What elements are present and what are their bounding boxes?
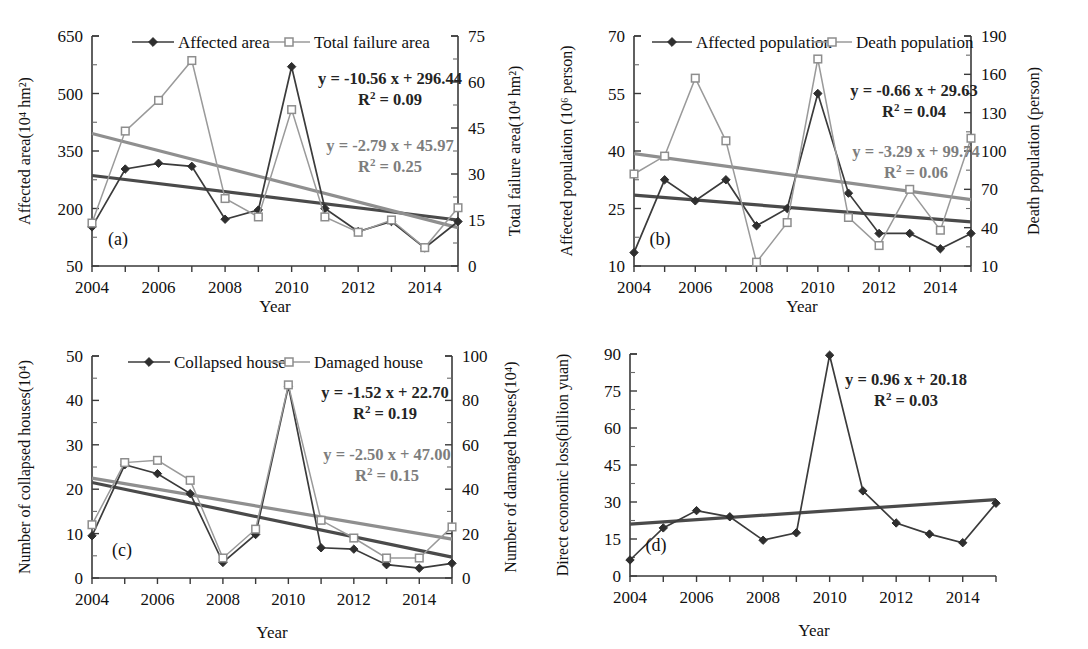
x-tick-label: 2008 [740,278,774,297]
x-tick-label: 2008 [206,590,240,609]
x-tick-label: 2012 [879,588,913,607]
marker-square [354,228,362,236]
y2-axis-title: Death population (person) [1025,67,1043,235]
y-tick-label: 650 [58,27,84,46]
chart-panel-b: 1025405570104070100130160190200420062008… [534,0,1088,320]
legend-label: Damaged house [314,353,423,372]
marker-square [845,214,853,222]
marker-square [155,97,163,105]
marker-square [288,106,296,114]
trend-r2-1: R2 = 0.04 [882,101,946,121]
x-axis-ticks: 200420062008201020122014 [75,578,452,609]
y-tick-label: 0 [613,567,622,586]
y-axis-title: Affected population (10⁶ person) [558,46,576,257]
panel-label: (a) [108,229,128,250]
y2-tick-label: 60 [468,73,485,92]
y2-tick-label: 80 [462,391,479,410]
marker-diamond [154,159,162,167]
marker-square [875,242,883,250]
y2-tick-label: 40 [981,219,998,238]
marker-diamond [121,165,129,173]
marker-square [630,170,638,178]
x-axis-ticks: 200420062008201020122014 [613,576,996,607]
marker-square [252,525,260,533]
y-tick-label: 10 [66,525,83,544]
trend-equation-2: y = -3.29 x + 99.74 [852,142,979,161]
marker-square [906,186,914,194]
x-tick-label: 2010 [275,278,309,297]
trend-r2-2: R2 = 0.25 [358,156,422,176]
y-tick-label: 15 [604,530,621,549]
y2-tick-label: 60 [462,436,479,455]
x-axis-ticks: 200420062008201020122014 [75,266,458,297]
y2-tick-label: 40 [462,480,479,499]
x-tick-label: 2014 [402,590,437,609]
marker-square [691,74,699,82]
x-tick-label: 2006 [140,590,174,609]
y-tick-label: 350 [58,142,84,161]
marker-diamond [221,215,229,223]
trendline-1 [630,500,996,525]
legend-label: Death population [856,33,974,52]
left-axis-ticks: 01020304050 [66,347,99,588]
marker-diamond [925,530,933,538]
x-tick-label: 2010 [271,590,305,609]
figure-container: 5020035050065001530456075200420062008201… [0,0,1088,649]
panel-label: (c) [112,540,132,561]
y-tick-label: 20 [66,480,83,499]
marker-square [783,219,791,227]
marker-square [722,137,730,145]
trendline-1 [634,195,971,222]
y2-tick-label: 70 [981,180,998,199]
legend-marker-diamond [668,38,677,47]
y-tick-label: 10 [608,257,625,276]
legend-marker-diamond [145,358,154,367]
marker-square [661,152,669,160]
legend-marker-square [285,38,293,46]
x-tick-label: 2014 [946,588,981,607]
x-tick-label: 2014 [923,278,958,297]
y-tick-label: 30 [604,493,621,512]
marker-diamond [792,529,800,537]
x-tick-label: 2012 [862,278,896,297]
marker-square [321,213,329,221]
y2-tick-label: 10 [981,257,998,276]
trend-equation-1: y = 0.96 x + 20.18 [845,370,967,389]
x-axis-ticks: 200420062008201020122014 [617,266,971,297]
marker-square [317,516,325,524]
trendline-1 [92,483,452,558]
x-tick-label: 2010 [801,278,835,297]
marker-diamond [88,532,96,540]
marker-square [415,554,423,562]
y2-tick-label: 130 [981,104,1007,123]
y2-axis-title: Number of damaged houses(10⁴) [502,361,520,572]
y-tick-label: 60 [604,419,621,438]
x-tick-label: 2008 [208,278,242,297]
legend: Affected populationDeath population [652,33,974,52]
trend-equation-1: y = -1.52 x + 22.70 [321,383,448,402]
marker-square [388,216,396,224]
marker-square [814,55,822,63]
marker-diamond [814,89,822,97]
marker-diamond [936,245,944,253]
x-axis-title: Year [259,297,291,316]
x-axis-title: Year [786,297,818,316]
marker-square [350,534,358,542]
marker-square [255,213,263,221]
legend: Affected areaTotal failure area [132,33,430,52]
x-tick-label: 2004 [75,278,110,297]
legend-marker-square [828,38,836,46]
y2-tick-label: 100 [981,142,1007,161]
legend: Collapsed houseDamaged house [128,353,423,372]
x-axis-title: Year [798,621,830,640]
marker-diamond [287,62,295,70]
y-tick-label: 40 [66,391,83,410]
x-axis-title: Year [256,623,288,642]
left-axis-ticks: 1025405570 [608,27,641,276]
marker-diamond [317,544,325,552]
y-tick-label: 50 [66,347,83,366]
x-tick-label: 2006 [678,278,712,297]
y-tick-label: 55 [608,85,625,104]
y2-tick-label: 20 [462,525,479,544]
y-tick-label: 30 [66,436,83,455]
